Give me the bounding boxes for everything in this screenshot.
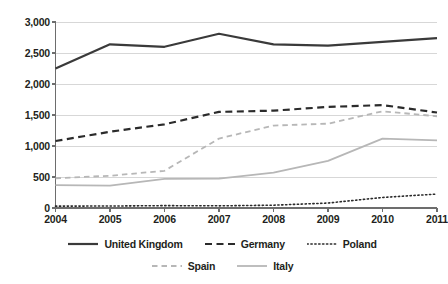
- x-axis-tick-label: 2004: [44, 214, 67, 225]
- series-line-germany: [56, 105, 438, 141]
- x-axis-tick-label: 2011: [426, 214, 448, 225]
- legend-item-united-kingdom[interactable]: United Kingdom: [68, 238, 182, 250]
- x-axis-tick-label: 2009: [317, 214, 340, 225]
- legend-row: SpainItaly: [0, 255, 445, 277]
- legend-item-spain[interactable]: Spain: [152, 260, 216, 272]
- legend-swatch-icon: [152, 260, 182, 272]
- y-axis-tick-label: 1,000: [4, 141, 50, 152]
- x-axis-tick-label: 2005: [99, 214, 122, 225]
- series-line-poland: [56, 194, 438, 206]
- legend-item-italy[interactable]: Italy: [237, 260, 293, 272]
- series-line-united-kingdom: [56, 34, 438, 69]
- y-axis-tick-label: 500: [4, 172, 50, 183]
- x-axis-tick-label: 2008: [262, 214, 285, 225]
- x-axis-tick-label: 2010: [371, 214, 394, 225]
- series-line-spain: [56, 111, 438, 178]
- legend-row: United KingdomGermanyPoland: [0, 233, 445, 255]
- legend-item-poland[interactable]: Poland: [307, 238, 377, 250]
- legend-item-germany[interactable]: Germany: [205, 238, 285, 250]
- y-axis-tick-label: 1,500: [4, 110, 50, 121]
- legend-label: Italy: [273, 260, 293, 272]
- x-axis-tick-label: 2007: [208, 214, 231, 225]
- legend-label: Germany: [241, 238, 285, 250]
- legend-swatch-icon: [237, 260, 267, 272]
- y-axis-tick-label: 2,500: [4, 48, 50, 59]
- y-axis-tick-label: 3,000: [4, 17, 50, 28]
- x-axis-tick-label: 2006: [153, 214, 176, 225]
- legend-swatch-icon: [307, 238, 337, 250]
- legend-label: Spain: [188, 260, 216, 272]
- chart-legend: United KingdomGermanyPolandSpainItaly: [0, 233, 445, 277]
- legend-label: Poland: [343, 238, 377, 250]
- legend-label: United Kingdom: [104, 238, 182, 250]
- y-axis-tick-label: 0: [4, 203, 50, 214]
- legend-swatch-icon: [205, 238, 235, 250]
- legend-swatch-icon: [68, 238, 98, 250]
- y-axis-tick-label: 2,000: [4, 79, 50, 90]
